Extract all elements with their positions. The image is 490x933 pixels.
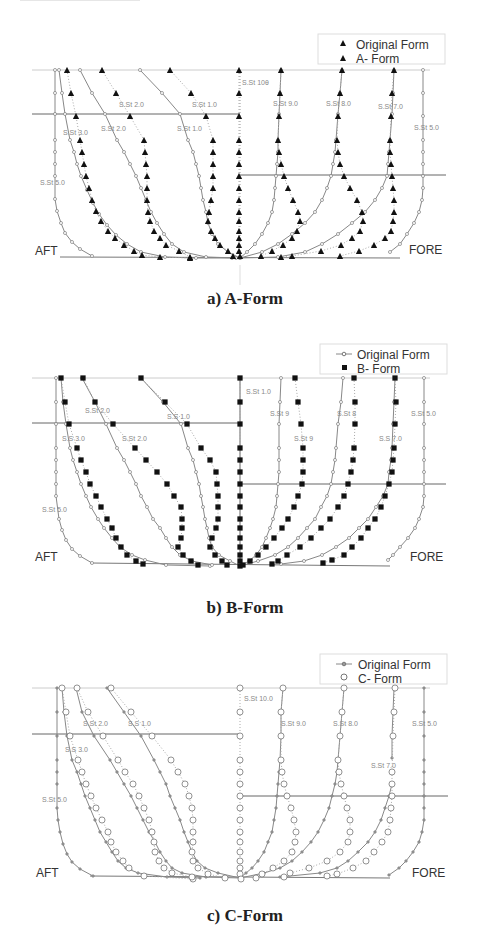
legend-dot-icon [342,662,346,666]
station-label: S.St 2.0 [119,101,144,108]
station-label: S.St 9.0 [273,100,298,107]
panel-b-form: Original Form B- Form S.S [0,330,490,610]
station-label: S.St 9 [294,435,313,442]
station-label: S.S 7.0 [379,435,402,442]
legend-variant: A- Form [356,52,399,66]
station-label: S.St 1.0 [192,101,217,108]
station-label: S.St 9 [270,410,289,417]
station-label: S.St 7.0 [371,762,396,769]
caption-a: a) A-Form [0,289,490,309]
station-label: S.St 5.0 [40,179,65,186]
station-label: S.St 2.0 [85,407,110,414]
station-label: S.St 10θ [242,79,269,86]
station-label: S.S 3.0 [62,435,85,442]
aft-label: AFT [36,866,59,880]
panel-c-form: Original Form C- Form S [0,640,490,900]
station-label: S.St 8 [337,410,356,417]
legend-original: Original Form [356,38,429,52]
legend-variant: C- Form [358,672,402,686]
station-label: S.St 5.0 [411,410,436,417]
caption-b: b) B-Form [0,598,490,618]
legend: Original Form C- Form [320,654,447,686]
station-label: S.S 1.0 [167,413,190,420]
station-label: S.St 5.0 [42,796,67,803]
legend-square-icon [342,365,347,370]
station-label: S.St 10.0 [244,695,273,702]
station-label: S.S 3.0 [65,746,88,753]
station-label: S.St 1.0 [177,125,202,132]
legend: Original Form A- Form [318,34,445,66]
a-form-chart: Original Form A- Form [0,0,490,320]
station-label: S.St 2.0 [83,720,108,727]
station-label: S.St 2.0 [101,125,126,132]
aft-label: AFT [35,244,58,258]
station-label: S.St 8.0 [326,100,351,107]
legend-original: Original Form [358,658,431,672]
panel-a-form: Original Form A- Form [0,0,490,320]
fore-label: FORE [409,243,442,257]
legend-open-circle-icon [341,674,347,680]
legend: Original Form B- Form [320,344,447,376]
station-label: S.St 5.0 [42,506,67,513]
legend-variant: B- Form [357,362,400,376]
fore-label: FORE [410,550,443,564]
b-form-chart: Original Form B- Form S.S [0,330,490,610]
station-label: S.St 5.0 [412,720,437,727]
caption-c: c) C-Form [0,906,490,926]
station-label: S.St 9.0 [281,720,306,727]
station-label: S.St 1.0 [246,388,271,395]
station-label: S.St 2.0 [122,435,147,442]
fore-label: FORE [412,866,445,880]
station-label: S.St 8.0 [333,720,358,727]
legend-circle-icon [342,352,346,356]
c-form-chart: Original Form C- Form S [0,640,490,900]
station-label: S.St 7.0 [378,103,403,110]
station-label: S.S 1.0 [128,720,151,727]
station-label: S.St 3.0 [63,129,88,136]
aft-label: AFT [35,550,58,564]
legend-original: Original Form [357,348,430,362]
station-label: S.St 5.0 [414,124,439,131]
